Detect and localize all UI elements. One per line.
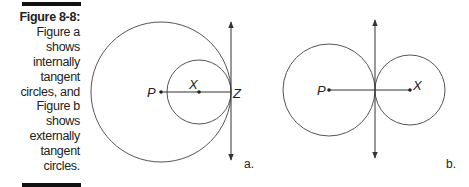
label-p: P <box>317 83 326 98</box>
figure-b: P X b. <box>283 20 456 171</box>
label-x: X <box>412 78 423 93</box>
label-z: Z <box>232 86 242 101</box>
figure-diagram: P X Z a. P X b. <box>0 0 469 187</box>
label-p: P <box>147 85 156 100</box>
point-p-dot <box>327 88 331 92</box>
figure-a-label: a. <box>244 157 254 171</box>
point-x-dot <box>197 90 201 94</box>
figure-a: P X Z a. <box>91 22 254 171</box>
label-x: X <box>188 77 199 92</box>
point-p-dot <box>159 90 163 94</box>
point-x-dot <box>408 88 412 92</box>
figure-b-label: b. <box>446 157 456 171</box>
